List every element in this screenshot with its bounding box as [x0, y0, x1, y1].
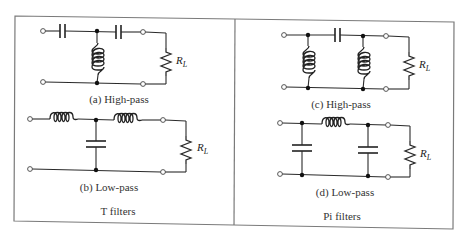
junction-dot — [306, 86, 310, 90]
panel-title-t-filters: T filters — [101, 205, 136, 217]
circuit-a-t-high-pass: RL (a) High-pass — [41, 24, 188, 106]
caption-d: (d) Low-pass — [316, 186, 374, 199]
load-label: RL — [196, 141, 209, 156]
load-resistor — [405, 141, 415, 169]
input-terminal — [278, 121, 283, 126]
input-terminal — [41, 80, 46, 85]
junction-dot — [361, 34, 365, 38]
input-terminal — [28, 167, 33, 172]
input-terminal — [282, 33, 287, 38]
filter-diagram: RL (a) High-pass RL (b) Low-pass T filte… — [0, 0, 465, 238]
output-terminal — [161, 118, 166, 123]
load-label: RL — [418, 58, 431, 73]
junction-dot — [366, 123, 370, 127]
shunt-inductor — [358, 47, 370, 79]
circuit-d-pi-low-pass: RL (d) Low-pass — [278, 118, 432, 200]
junction-dot — [366, 174, 370, 178]
output-terminal — [141, 82, 146, 87]
shunt-inductor — [303, 46, 315, 78]
input-terminal — [278, 172, 283, 177]
circuit-c-pi-high-pass: RL (c) High-pass — [282, 28, 431, 111]
output-terminal — [141, 30, 146, 35]
output-terminal — [384, 34, 389, 39]
panel-title-pi-filters: Pi filters — [323, 210, 361, 222]
junction-dot — [306, 33, 310, 37]
series-inductor — [50, 113, 78, 122]
shunt-inductor — [92, 43, 104, 75]
panel-divider — [234, 19, 235, 225]
output-terminal — [386, 175, 391, 180]
series-inductor — [114, 114, 142, 123]
output-terminal — [161, 170, 166, 175]
load-resistor — [404, 52, 414, 80]
circuit-b-t-low-pass: RL (b) Low-pass — [28, 113, 209, 195]
junction-dot — [95, 29, 99, 33]
output-terminal — [386, 123, 391, 128]
junction-dot — [94, 118, 98, 122]
caption-c: (c) High-pass — [311, 98, 371, 111]
junction-dot — [361, 87, 365, 91]
junction-dot — [300, 121, 304, 125]
junction-dot — [94, 168, 98, 172]
input-terminal — [282, 85, 287, 90]
caption-b: (b) Low-pass — [80, 181, 138, 194]
load-resistor — [161, 48, 171, 76]
input-terminal — [28, 117, 33, 122]
input-terminal — [41, 29, 46, 34]
output-terminal — [384, 87, 389, 92]
load-label: RL — [175, 54, 188, 69]
caption-a: (a) High-pass — [89, 93, 149, 106]
junction-dot — [95, 81, 99, 85]
load-label: RL — [419, 147, 432, 162]
junction-dot — [300, 173, 304, 177]
load-resistor — [181, 136, 191, 164]
series-inductor — [322, 118, 350, 127]
